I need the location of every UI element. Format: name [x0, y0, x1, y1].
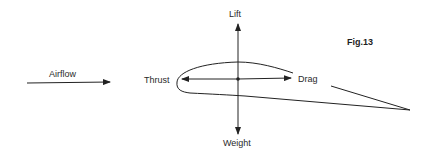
weight-label: Weight: [223, 138, 251, 148]
airfoil-lower-surface: [177, 82, 410, 110]
airflow-arrow-icon: [27, 82, 110, 83]
lift-label: Lift: [229, 9, 241, 19]
airflow-label: Airflow: [49, 69, 76, 79]
airfoil-outline: [177, 62, 410, 110]
figure-caption: Fig.13: [347, 37, 373, 47]
center-point-icon: [236, 77, 240, 81]
drag-label: Drag: [298, 74, 318, 84]
drag-arrow-icon: [238, 78, 291, 79]
thrust-label: Thrust: [144, 75, 170, 85]
